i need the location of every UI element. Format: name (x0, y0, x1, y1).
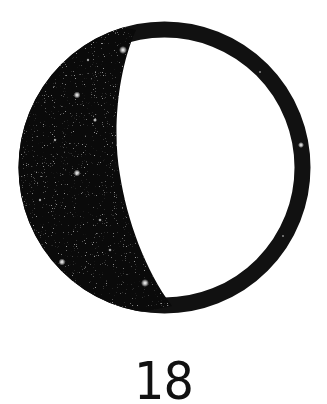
phase-number-label: 18 (13, 355, 314, 404)
